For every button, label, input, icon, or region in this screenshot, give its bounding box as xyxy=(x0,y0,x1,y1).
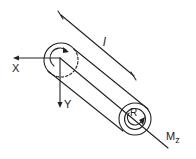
radius-label: R xyxy=(130,107,137,118)
moment-label-subscript: z xyxy=(175,135,180,145)
torsion-shaft-diagram: X Y l R Mz xyxy=(0,0,196,159)
x-axis-label: X xyxy=(12,62,20,74)
x-axis-arrow xyxy=(13,56,60,61)
length-label: l xyxy=(103,35,106,49)
y-axis-arrow xyxy=(58,58,63,108)
y-axis-label: Y xyxy=(64,98,72,110)
moment-label: Mz xyxy=(166,130,180,145)
moment-axis-line xyxy=(60,58,168,148)
moment-label-main: M xyxy=(166,130,175,142)
